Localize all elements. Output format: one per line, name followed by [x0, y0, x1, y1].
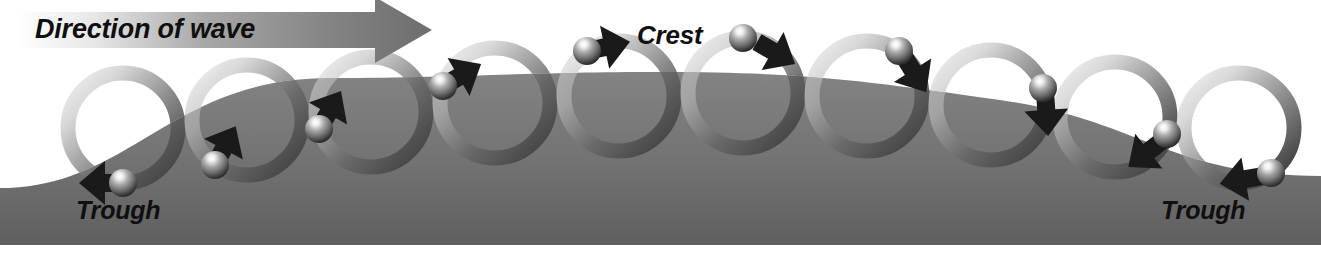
trough-label-left: Trough — [76, 196, 160, 225]
trough-label-right: Trough — [1161, 196, 1245, 225]
particle-sphere — [729, 24, 757, 52]
particle-sphere — [201, 151, 229, 179]
particle-sphere — [1153, 120, 1181, 148]
particle-sphere — [109, 169, 137, 197]
particle-sphere — [1029, 74, 1057, 102]
particle-sphere — [573, 37, 601, 65]
particle-sphere — [885, 37, 913, 65]
particle-sphere — [1257, 159, 1285, 187]
wave-motion-diagram: Direction of wave Crest Trough Trough — [0, 0, 1321, 263]
crest-label: Crest — [637, 20, 702, 51]
particle-sphere — [429, 72, 457, 100]
direction-of-wave-label: Direction of wave — [35, 14, 255, 45]
particle-sphere — [305, 115, 333, 143]
